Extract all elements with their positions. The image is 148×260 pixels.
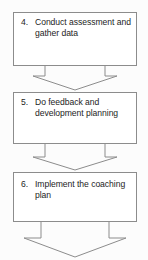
step-label-4: Conduct assessment and gather data [35, 17, 133, 40]
step-label-6: Implement the coaching plan [35, 179, 133, 202]
step-text-6: 6. Implement the coaching plan [21, 179, 133, 215]
step-label-5: Do feedback and development planning [35, 97, 133, 120]
flowchart-page: 4. Conduct assessment and gather data 5.… [0, 0, 148, 260]
step-number-6: 6. [21, 179, 35, 190]
arrow-6-to-next-icon [24, 222, 126, 257]
step-text-4: 4. Conduct assessment and gather data [21, 17, 133, 63]
arrow-4-to-5-icon [33, 66, 117, 90]
step-number-5: 5. [21, 97, 35, 108]
arrow-5-to-6-icon [33, 144, 117, 170]
step-text-5: 5. Do feedback and development planning [21, 97, 133, 141]
step-number-4: 4. [21, 17, 35, 28]
